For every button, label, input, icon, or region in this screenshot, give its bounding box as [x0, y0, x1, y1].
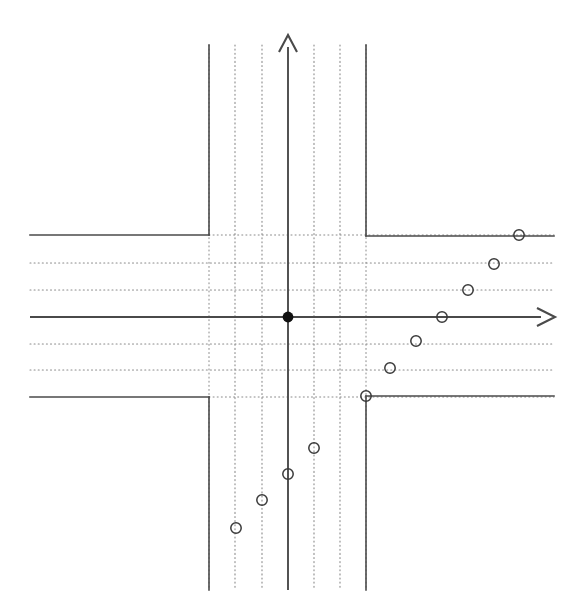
- origin-point-marker[interactable]: [283, 312, 294, 323]
- data-point-marker-4[interactable]: [361, 391, 371, 401]
- axes-layer: [30, 35, 555, 590]
- data-point-marker-0[interactable]: [231, 523, 241, 533]
- step-function-scatter-plot: [0, 0, 584, 611]
- data-point-marker-8[interactable]: [463, 285, 473, 295]
- data-points-layer: [231, 230, 524, 533]
- data-point-marker-5[interactable]: [385, 363, 395, 373]
- data-point-marker-7[interactable]: [437, 312, 447, 322]
- figure-root: [0, 0, 584, 611]
- data-point-marker-3[interactable]: [309, 443, 319, 453]
- data-point-marker-2[interactable]: [283, 469, 293, 479]
- data-point-marker-10[interactable]: [514, 230, 524, 240]
- data-point-marker-1[interactable]: [257, 495, 267, 505]
- data-point-marker-6[interactable]: [411, 336, 421, 346]
- data-point-marker-9[interactable]: [489, 259, 499, 269]
